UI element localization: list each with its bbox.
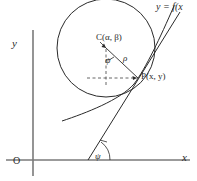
angle-arc-at-axis xyxy=(101,142,110,160)
curve-equation-label: y = f(x xyxy=(156,2,183,12)
angle-label-at-axis: ψ xyxy=(95,152,101,161)
radius-label: ρ xyxy=(123,54,127,63)
tangent-point-label: P(x, y) xyxy=(141,72,166,81)
origin-label: O xyxy=(13,156,20,166)
curve-y-equals-f-of-x xyxy=(62,6,174,121)
tangent-tick-mark xyxy=(100,140,107,142)
curvature-diagram: y x O C(α, β) P(x, y) ρ ψ ψ y = f(x xyxy=(0,0,197,181)
x-axis-label: x xyxy=(182,152,187,163)
angle-label-at-center: ψ xyxy=(105,56,111,65)
circle-center-label: C(α, β) xyxy=(96,33,122,42)
y-axis-label: y xyxy=(12,38,17,49)
